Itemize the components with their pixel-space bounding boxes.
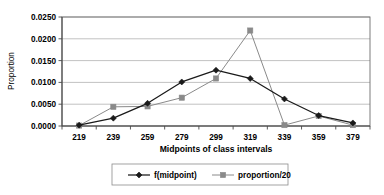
x-tick-label: 239	[106, 133, 120, 142]
legend-marker-square-icon	[220, 172, 225, 177]
data-point-marker	[282, 123, 287, 128]
y-tick-label: 0.0150	[31, 57, 56, 66]
y-tick-label: 0.0100	[31, 78, 56, 87]
legend-label: f(midpoint)	[154, 171, 197, 180]
y-axis-title: Proportion	[7, 52, 16, 90]
x-tick-label: 359	[312, 133, 326, 142]
data-point-marker	[248, 28, 253, 33]
x-tick-label: 259	[141, 133, 155, 142]
data-point-marker	[213, 76, 218, 81]
x-tick-label: 299	[209, 133, 223, 142]
chart-container: 0.00000.00500.01000.01500.02000.0250 219…	[0, 0, 384, 195]
proportion-vs-midpoints-line-chart: 0.00000.00500.01000.01500.02000.0250 219…	[0, 0, 384, 195]
y-tick-label: 0.0200	[31, 35, 56, 44]
legend-label: proportion/20	[238, 171, 291, 180]
x-tick-label: 219	[72, 133, 86, 142]
x-axis-title: Midpoints of class intervals	[160, 144, 273, 154]
x-tick-label: 279	[175, 133, 189, 142]
data-point-marker	[111, 104, 116, 109]
y-tick-label: 0.0250	[31, 13, 56, 22]
y-tick-label: 0.0050	[31, 100, 56, 109]
x-tick-label: 319	[243, 133, 257, 142]
data-point-marker	[179, 95, 184, 100]
chart-legend: f(midpoint)proportion/20	[112, 164, 291, 185]
y-tick-label: 0.0000	[31, 122, 56, 131]
x-tick-label: 379	[346, 133, 360, 142]
x-axis-tick-labels: 219239259279299319339359379	[72, 133, 360, 142]
x-tick-label: 339	[278, 133, 292, 142]
